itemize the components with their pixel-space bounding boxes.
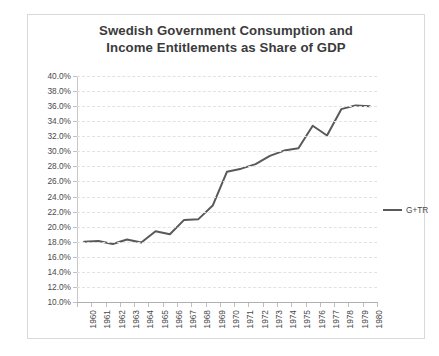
x-axis-tick-mark [277,303,278,307]
x-axis-tick-label: 1980 [374,310,384,328]
x-axis-tick-mark [191,303,192,307]
x-axis-tick-label: 1963 [131,310,141,328]
x-axis-tick-label: 1960 [88,310,98,328]
x-axis-tick-label: 1973 [274,310,284,328]
legend-label-g-tr: G+TR [406,205,428,215]
chart-legend: G+TR [383,205,428,215]
series-line-chart [77,76,377,302]
x-axis-tick-mark [163,303,164,307]
x-axis-tick-label: 1976 [317,310,327,328]
x-axis-tick-mark [320,303,321,307]
x-axis-tick-mark [348,303,349,307]
x-axis-tick-label: 1978 [345,310,355,328]
y-axis-tick-label: 28.0% [47,161,71,171]
x-axis-tick-mark [234,303,235,307]
x-axis-tick-label: 1971 [245,310,255,328]
x-axis-tick-label: 1964 [145,310,155,328]
x-axis-tick-mark [148,303,149,307]
gridline [77,212,377,213]
x-axis-tick-label: 1969 [217,310,227,328]
y-axis-tick-label: 32.0% [47,131,71,141]
legend-swatch-g-tr [383,209,402,211]
x-axis-tick-label: 1972 [260,310,270,328]
y-axis-tick-label: 16.0% [47,252,71,262]
x-axis-tick-mark [363,303,364,307]
plot-wrapper: 40.0%38.0%36.0%34.0%32.0%30.0%28.0%26.0%… [28,15,424,338]
x-axis-tick-mark [291,303,292,307]
gridline [77,287,377,288]
x-axis-tick-mark [106,303,107,307]
x-axis-tick-mark [177,303,178,307]
gridline [77,242,377,243]
x-axis-tick-label: 1977 [331,310,341,328]
chart-container: Swedish Government Consumption and Incom… [27,14,425,339]
y-axis-tick-label: 38.0% [47,86,71,96]
gridline [77,257,377,258]
gridline [77,227,377,228]
x-axis-tick-mark [306,303,307,307]
x-axis-tick-label: 1962 [117,310,127,328]
gridline [77,151,377,152]
x-axis-tick-mark [220,303,221,307]
y-axis-tick-label: 40.0% [47,71,71,81]
x-axis-tick-label: 1979 [360,310,370,328]
gridline [77,76,377,77]
y-axis-tick-label: 18.0% [47,237,71,247]
y-axis-tick-label: 14.0% [47,267,71,277]
x-axis-tick-mark [120,303,121,307]
x-axis-tick-label: 1965 [160,310,170,328]
gridline [77,121,377,122]
x-axis-tick-mark [248,303,249,307]
y-axis-tick-label: 22.0% [47,207,71,217]
x-axis-tick-mark [134,303,135,307]
x-axis-tick-label: 1974 [288,310,298,328]
gridline [77,197,377,198]
x-axis-tick-mark [377,303,378,307]
x-axis-tick-mark [334,303,335,307]
x-axis-line [77,302,378,303]
gridline [77,272,377,273]
gridline [77,166,377,167]
y-axis-tick-label: 34.0% [47,116,71,126]
gridline [77,91,377,92]
x-axis-tick-label: 1968 [202,310,212,328]
x-axis-tick-label: 1966 [174,310,184,328]
y-axis-tick-label: 20.0% [47,222,71,232]
gridline [77,106,377,107]
x-axis-tick-mark [263,303,264,307]
series-line-g-tr [84,105,370,244]
x-axis-tick-label: 1967 [188,310,198,328]
x-axis-tick-label: 1970 [231,310,241,328]
x-axis-tick-mark [91,303,92,307]
gridline [77,181,377,182]
x-axis-tick-mark [206,303,207,307]
gridline [77,136,377,137]
y-axis-tick-label: 12.0% [47,282,71,292]
y-axis-tick-label: 26.0% [47,176,71,186]
y-axis-tick-label: 24.0% [47,192,71,202]
x-axis-tick-label: 1961 [102,310,112,328]
y-axis-tick-label: 10.0% [47,297,71,307]
y-axis-tick-label: 36.0% [47,101,71,111]
y-axis-tick-label: 30.0% [47,146,71,156]
x-axis-tick-mark [77,303,78,307]
x-axis-tick-label: 1975 [302,310,312,328]
